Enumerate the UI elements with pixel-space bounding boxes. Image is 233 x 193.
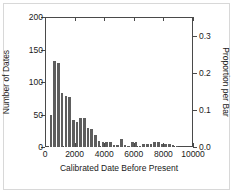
x-axis-top-tick [163,17,164,21]
x-axis-title: Calibrated Date Before Present [45,163,193,173]
y-axis-right-tick [193,110,197,111]
x-axis-top-tick [104,17,105,21]
y-axis-left-title: Number of Dates [1,50,11,114]
x-axis-tick [45,143,46,147]
x-axis-tick [193,143,194,147]
x-axis-tick [75,143,76,147]
histogram-bar [175,146,179,147]
x-axis-tick [163,143,164,147]
y-axis-right-tick [193,147,197,148]
x-axis-tick-label: 10000 [173,150,213,159]
chart-figure: Number of Dates Proportion per Bar Calib… [0,0,233,193]
y-axis-right-tick-label: 0.3 [199,32,211,40]
y-axis-right-tick-label: 0.1 [199,106,211,114]
y-axis-right-tick [193,36,197,37]
y-axis-left-tick-label: 50 [34,111,43,119]
y-axis-right-tick-label: 0.2 [199,69,211,77]
x-axis-top-tick [134,17,135,21]
y-axis-left-tick-label: 200 [29,13,43,21]
y-axis-left-tick-label: 100 [29,78,43,86]
histogram-bars [45,17,193,147]
y-axis-right-tick [193,73,197,74]
y-axis-right-title: Proportion per Bar [221,47,231,116]
x-axis-top-tick [75,17,76,21]
x-axis-top-tick [45,17,46,21]
y-axis-left-tick-label: 150 [29,46,43,54]
x-axis-tick [104,143,105,147]
x-axis-top-tick [193,17,194,21]
x-axis-tick [134,143,135,147]
